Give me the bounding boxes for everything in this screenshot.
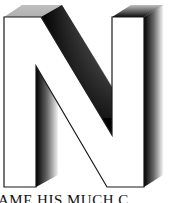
caption-text: AME HIS MUCH C bbox=[0, 193, 177, 203]
letter-n-illustration bbox=[0, 0, 177, 203]
